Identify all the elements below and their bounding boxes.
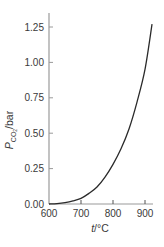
x-axis-label: t/°C	[91, 222, 109, 234]
x-axis: 600700800900	[41, 200, 154, 219]
y-axis-label-unit: /bar	[3, 110, 15, 129]
y-axis-label-var: P	[3, 142, 15, 149]
y-axis: 0.000.250.500.751.001.25	[25, 13, 53, 210]
y-tick-label: 0.25	[25, 163, 45, 174]
x-tick-label: 700	[73, 208, 90, 219]
y-tick-label: 0.75	[25, 92, 45, 103]
y-axis-label: PCO2/bar	[3, 110, 18, 149]
y-tick-label: 1.00	[25, 57, 45, 68]
y-tick-label: 0.50	[25, 128, 45, 139]
x-axis-label-unit: /°C	[94, 222, 109, 234]
x-tick-label: 800	[105, 208, 122, 219]
y-axis-label-sub: CO	[10, 131, 17, 142]
chart: 0.000.250.500.751.001.25 600700800900 PC…	[0, 0, 164, 247]
x-tick-label: 900	[137, 208, 154, 219]
x-tick-label: 600	[41, 208, 58, 219]
data-curve	[49, 24, 152, 204]
y-tick-label: 1.25	[25, 22, 45, 33]
